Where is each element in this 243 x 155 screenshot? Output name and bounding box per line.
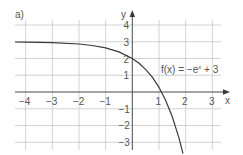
svg-text:3: 3 <box>209 96 215 107</box>
x-tick-labels: −4 −3 −2 −1 1 2 3 <box>19 96 215 107</box>
y-axis <box>130 10 135 150</box>
svg-text:−3: −3 <box>46 96 58 107</box>
svg-text:2: 2 <box>182 96 188 107</box>
function-graph: a) x y −4 −3 −2 −1 1 2 3 <box>0 0 243 155</box>
panel-label: a) <box>15 9 24 20</box>
svg-text:−2: −2 <box>119 120 131 131</box>
svg-text:−2: −2 <box>73 96 85 107</box>
x-axis-label: x <box>225 95 230 106</box>
y-tick-labels: 4 3 2 1 −1 −2 −3 <box>119 20 131 148</box>
x-axis-arrow-icon <box>223 89 230 94</box>
svg-text:4: 4 <box>124 20 130 31</box>
y-axis-arrow-icon <box>130 10 135 17</box>
svg-text:−4: −4 <box>19 96 31 107</box>
function-label: f(x) = −ex + 3 <box>161 64 219 75</box>
svg-text:3: 3 <box>124 37 130 48</box>
svg-text:−3: −3 <box>119 137 131 148</box>
y-axis-label: y <box>121 9 126 20</box>
svg-text:1: 1 <box>124 70 130 81</box>
svg-text:1: 1 <box>156 96 162 107</box>
svg-text:−1: −1 <box>100 96 112 107</box>
svg-text:−1: −1 <box>119 104 131 115</box>
x-axis <box>15 89 230 94</box>
